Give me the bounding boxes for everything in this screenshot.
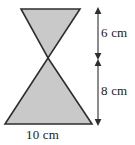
arrowhead-down-6cm [95,53,102,60]
figure-canvas [0,0,135,145]
dimension-label-8cm: 8 cm [101,83,127,99]
dimension-label-10cm: 10 cm [26,127,59,143]
upper-inverted-triangle [21,9,80,58]
arrowhead-up-6cm [95,7,102,14]
arrowhead-down-8cm [95,119,102,126]
lower-upright-triangle [5,58,92,124]
geometry-figure: 6 cm 8 cm 10 cm [0,0,135,145]
arrowhead-up-8cm [95,59,102,66]
dimension-label-6cm: 6 cm [101,25,127,41]
